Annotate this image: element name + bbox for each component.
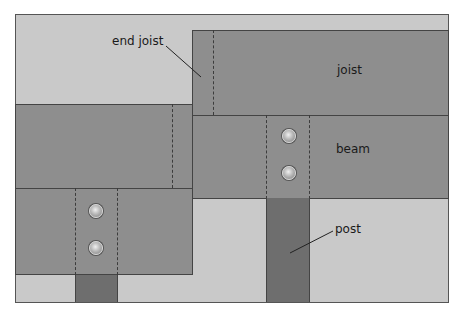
joist-label: joist (337, 63, 362, 77)
beam-label: beam (336, 142, 370, 156)
end-joist-leader (166, 46, 201, 77)
post-label: post (335, 222, 361, 236)
end-joist-label: end joist (112, 34, 163, 48)
leader-lines (0, 0, 463, 321)
post-leader (290, 231, 333, 253)
